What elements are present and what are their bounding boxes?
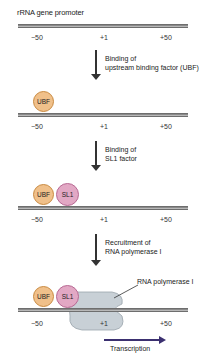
down-arrow-icon — [95, 50, 97, 75]
transcription-arrow-icon — [104, 339, 160, 341]
sl1-factor: SL1 — [56, 285, 79, 308]
tick-plus50: +50 — [160, 216, 172, 223]
tick-plus1: +1 — [100, 34, 108, 41]
dna-strand-4 — [18, 308, 188, 312]
tick-plus1: +1 — [100, 216, 108, 223]
step-3-label: Recruitment of RNA polymerase I — [105, 238, 161, 256]
dna-strand-3 — [18, 206, 188, 210]
step-2-label: Binding of SL1 factor — [105, 145, 137, 163]
dna-strand-1 — [18, 24, 188, 28]
tick-plus50: +50 — [160, 123, 172, 130]
ubf-factor: UBF — [33, 286, 54, 307]
ubf-factor: UBF — [33, 184, 54, 205]
dna-strand-2 — [18, 113, 188, 117]
tick-plus50: +50 — [160, 320, 172, 327]
down-arrow-icon — [95, 141, 97, 166]
ubf-factor: UBF — [33, 91, 54, 112]
tick-minus50: −50 — [31, 320, 43, 327]
tick-plus1: +1 — [100, 123, 108, 130]
tick-minus50: −50 — [31, 123, 43, 130]
transcription-label: Transcription — [110, 345, 150, 352]
diagram-title: rRNA gene promoter — [17, 8, 84, 17]
tick-minus50: −50 — [31, 34, 43, 41]
sl1-factor: SL1 — [56, 183, 79, 206]
step-1-label: Binding of upstream binding factor (UBF) — [105, 54, 199, 72]
tick-plus50: +50 — [160, 34, 172, 41]
down-arrow-icon — [95, 234, 97, 261]
tick-plus1: +1 — [100, 320, 108, 327]
rna-polymerase-label: RNA polymerase I — [137, 278, 193, 285]
leader-line-icon — [110, 283, 140, 301]
tick-minus50: −50 — [31, 216, 43, 223]
